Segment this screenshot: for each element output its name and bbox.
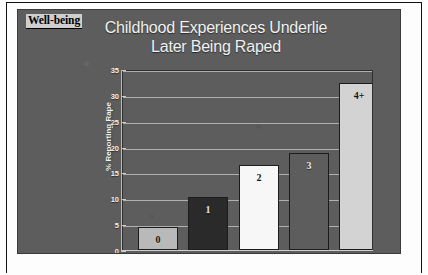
gridline (123, 123, 372, 124)
y-axis-ticks: 05101520253035 (104, 70, 122, 252)
y-axis-tick-label: 35 (111, 66, 119, 75)
y-axis-tick-label: 20 (111, 143, 119, 152)
gridline (123, 149, 372, 150)
page-border-right (421, 2, 422, 273)
gridline (123, 97, 372, 98)
bar-value-label: 3 (290, 160, 328, 171)
page-border-left (6, 2, 7, 273)
y-axis-tick-label: 25 (111, 117, 119, 126)
bar-value-label: 1 (189, 204, 227, 215)
y-axis-tick-label: 15 (111, 169, 119, 178)
plot-area: 01234+ (122, 70, 373, 251)
slide-title-line-2: Later Being Raped (56, 37, 376, 56)
y-axis-tick-mark (122, 122, 126, 123)
y-axis-tick-label: 10 (111, 195, 119, 204)
bar-1: 1 (188, 197, 228, 250)
y-axis-tick-mark (122, 251, 126, 252)
bar-4+: 4+ (339, 83, 373, 250)
slide-title-line-1: Childhood Experiences Underlie (56, 18, 376, 37)
bar-2: 2 (239, 165, 279, 250)
bar-value-label: 0 (139, 234, 177, 245)
y-axis-tick-label: 5 (115, 221, 119, 230)
y-axis-tick-mark (122, 225, 126, 226)
x-axis-baseline (122, 250, 373, 251)
bar-3: 3 (289, 153, 329, 250)
y-axis-tick-mark (122, 70, 126, 71)
y-axis-tick-mark (122, 148, 126, 149)
gridline (123, 71, 372, 72)
y-axis-tick-mark (122, 199, 126, 200)
bar-value-label: 4+ (340, 90, 373, 101)
bar-value-label: 2 (240, 172, 278, 183)
bar-chart: % Reporting Rape 05101520253035 01234+ (104, 70, 373, 252)
scanned-page: Well-being Childhood Experiences Underli… (0, 0, 428, 275)
bar-0: 0 (138, 227, 178, 250)
slide-title: Childhood Experiences Underlie Later Bei… (56, 18, 376, 56)
page-border-top (6, 2, 422, 3)
y-axis-tick-mark (122, 173, 126, 174)
y-axis-tick-mark (122, 96, 126, 97)
y-axis-tick-label: 30 (111, 91, 119, 100)
presentation-slide: Well-being Childhood Experiences Underli… (18, 10, 400, 253)
y-axis-tick-label: 0 (115, 247, 119, 254)
